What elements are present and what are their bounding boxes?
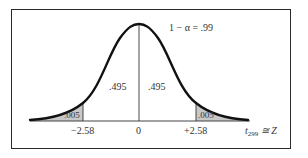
tick-label-zero: 0 [136, 126, 141, 136]
axis-label: t299 ≅ Z [245, 126, 277, 138]
confidence-level-label: 1 − α = .99 [169, 23, 213, 33]
center-area-right-label: .495 [148, 82, 166, 92]
left-tail-area-label: .005 [64, 111, 80, 120]
center-area-left-label: .495 [109, 82, 127, 92]
tick-label-neg: −2.58 [71, 126, 94, 136]
axis-label-df: 299 [248, 130, 259, 138]
tick-label-pos: +2.58 [184, 126, 207, 136]
right-tail-area-label: .005 [198, 111, 214, 120]
axis-label-z: ≅ Z [258, 125, 277, 136]
